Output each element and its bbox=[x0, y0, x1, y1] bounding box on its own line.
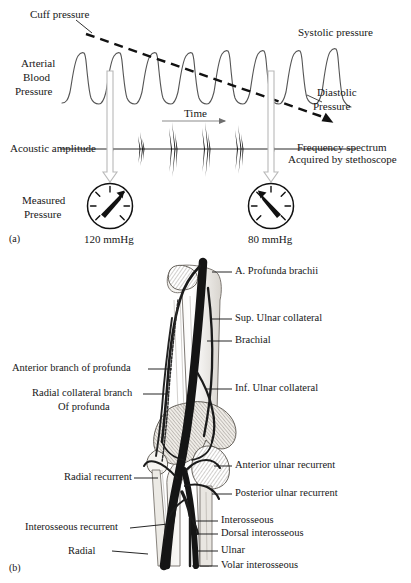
label-time: Time bbox=[184, 107, 207, 119]
label-diastolic-line2: Pressure bbox=[313, 100, 350, 112]
label-acquired-by-stethoscope: Acquired by stethoscope bbox=[288, 153, 397, 165]
label-interosseous-recurrent: Interosseous recurrent bbox=[25, 521, 118, 533]
label-arterial-line1: Arterial bbox=[21, 57, 55, 69]
label-diastolic-line1: Diastolic bbox=[317, 86, 357, 98]
label-posterior-ulnar-recurrent: Posterior ulnar recurrent bbox=[235, 487, 338, 499]
label-radial-collateral-branch: Radial collateral branch bbox=[32, 387, 132, 399]
panel-b-letter: (b) bbox=[9, 562, 21, 573]
label-gauge-diastolic-value: 80 mmHg bbox=[248, 233, 292, 245]
label-radial-recurrent: Radial recurrent bbox=[64, 471, 132, 483]
label-acoustic-amplitude: Acoustic amplitude bbox=[10, 142, 96, 154]
label-arterial-line2: Blood bbox=[23, 71, 50, 83]
gauge-systolic bbox=[88, 184, 133, 229]
label-ulnar: Ulnar bbox=[221, 544, 245, 556]
label-frequency-spectrum: Frequency spectrum bbox=[297, 141, 387, 153]
label-radial: Radial bbox=[68, 545, 95, 557]
label-measured-line2: Pressure bbox=[24, 208, 61, 220]
label-anterior-branch-of-profunda: Anterior branch of profunda bbox=[12, 362, 131, 374]
gauge-diastolic bbox=[249, 184, 294, 229]
label-gauge-systolic-value: 120 mmHg bbox=[84, 233, 134, 245]
label-dorsal-interosseous: Dorsal interosseous bbox=[221, 527, 304, 539]
label-volar-interosseous: Volar interosseous bbox=[221, 559, 298, 571]
label-brachial: Brachial bbox=[235, 334, 271, 346]
figure-container: Cuff pressure Arterial Blood Pressure Sy… bbox=[0, 0, 411, 583]
panel-a-letter: (a) bbox=[9, 233, 20, 244]
label-measured-line1: Measured bbox=[22, 194, 65, 206]
label-a-profunda-brachii: A. Profunda brachii bbox=[235, 265, 318, 277]
label-arterial-line3: Pressure bbox=[15, 85, 52, 97]
label-anterior-ulnar-recurrent: Anterior ulnar recurrent bbox=[235, 459, 335, 471]
label-of-profunda: Of profunda bbox=[58, 401, 110, 413]
label-inf-ulnar-collateral: Inf. Ulnar collateral bbox=[235, 382, 318, 394]
label-cuff-pressure: Cuff pressure bbox=[30, 8, 89, 20]
label-systolic-pressure: Systolic pressure bbox=[298, 26, 373, 38]
label-interosseous: Interosseous bbox=[221, 514, 274, 526]
label-sup-ulnar-collateral: Sup. Ulnar collateral bbox=[235, 312, 322, 324]
